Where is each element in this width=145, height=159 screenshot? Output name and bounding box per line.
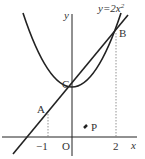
curve-label: y=2x2 (97, 2, 125, 14)
point-p-label: P (91, 121, 97, 133)
point-c-label: C (62, 78, 69, 90)
parabola-diagram: y=2x2 y x B C A P O −1 2 (0, 0, 145, 159)
line-ab (13, 15, 128, 154)
tick-two: 2 (113, 140, 119, 152)
x-axis-label: x (130, 139, 136, 151)
origin-label: O (62, 140, 70, 152)
point-p-marker (84, 125, 87, 128)
point-b-label: B (119, 27, 126, 39)
y-axis-label: y (63, 9, 69, 21)
point-a-label: A (37, 103, 45, 115)
tick-neg-one: −1 (36, 140, 48, 152)
